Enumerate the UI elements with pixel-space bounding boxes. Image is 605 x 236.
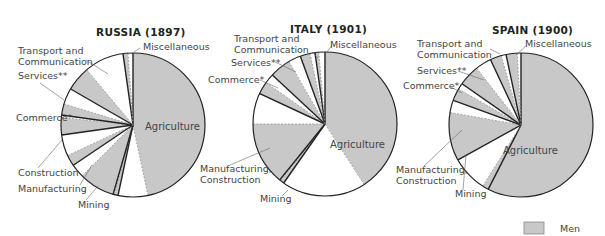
russia-label-transport-1: Transport and [17,45,83,56]
russia-label-mining: Mining [78,199,110,210]
italy-label-manuf-1: Manufacturing, [200,163,272,174]
italy-label-agriculture: Agriculture [330,139,385,150]
russia-label-transport-2: Communication [18,56,93,67]
spain-label-misc: Miscellaneous [525,38,592,49]
spain-label-services: Services** [417,65,467,76]
italy-label-mining: Mining [260,193,292,204]
legend-swatch-men [524,222,544,234]
spain-label-agriculture: Agriculture [503,145,558,156]
russia-title: RUSSIA (1897) [96,26,186,38]
spain-label-transport-1: Transport and [416,38,482,49]
russia-label-services: Services** [18,70,68,81]
russia-label-commerce: Commerce* [16,112,73,123]
spain-title: SPAIN (1900) [492,24,573,36]
russia-label-agriculture: Agriculture [145,121,200,132]
italy-label-transport-2: Communication [234,44,309,55]
russia-label-manufacturing: Manufacturing [18,183,87,194]
pie-group [61,52,593,197]
spain-label-manuf-2: Construction [396,175,457,186]
legend-label-men: Men [560,223,580,234]
italy-label-commerce: Commerce* [208,74,265,85]
italy-label-transport-1: Transport and [233,33,299,44]
spain-label-transport-2: Communication [417,49,492,60]
spain-label-mining: Mining [455,188,487,199]
italy-label-services: Services** [231,57,281,68]
italy-title: ITALY (1901) [290,23,367,35]
italy-label-misc: Miscellaneous [330,39,397,50]
spain-label-manuf-1: Manufacturing, [396,164,468,175]
spain-label-commerce: Commerce* [403,80,460,91]
pie-charts: RUSSIA (1897) Transport and Communicatio… [0,0,605,236]
russia-label-construction: Construction [18,167,79,178]
italy-label-manuf-2: Construction [200,174,261,185]
russia-label-misc: Miscellaneous [143,41,210,52]
